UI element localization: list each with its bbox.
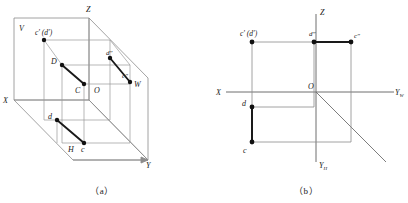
figure-panel-a: Z X Y V H W c′ (d′) D C d″ c″ d c O （a） xyxy=(0,0,204,203)
point-markers xyxy=(42,38,132,145)
point-cd-front xyxy=(42,38,46,42)
point-label-D-a: D xyxy=(50,57,57,66)
origin-label-a: O xyxy=(94,86,100,95)
plane-label-h: H xyxy=(67,145,75,154)
point-cd-front-b xyxy=(250,40,255,45)
segment-cd-top-view xyxy=(57,120,84,143)
projection-construction-lines xyxy=(44,40,130,143)
panel-b-drawing: Z X YW YH O c′ (d′) d″ c″ d c xyxy=(204,0,408,180)
axis-label-yh-b: YH xyxy=(319,161,327,171)
axis-y-arrow xyxy=(73,157,148,163)
point-label-d-top-b: d xyxy=(242,99,247,108)
plane-label-w: W xyxy=(134,80,142,89)
axis-label-yw-b: YW xyxy=(395,88,404,98)
axis-label-y-a: Y xyxy=(146,161,152,170)
axis-label-z-a: Z xyxy=(86,5,91,14)
point-d-top xyxy=(55,118,59,122)
axis-label-x-a: X xyxy=(2,96,9,105)
point-d-top-b xyxy=(250,105,255,110)
point-label-cd-front-b: c′ (d′) xyxy=(240,29,258,38)
point-d-side-b xyxy=(312,40,317,45)
point-c-top-b xyxy=(250,140,255,145)
origin-label-b: O xyxy=(308,82,314,91)
point-label-c-side-a: c″ xyxy=(122,72,128,80)
point-label-d-side-b: d″ xyxy=(309,30,316,38)
panel-a-drawing: Z X Y V H W c′ (d′) D C d″ c″ d c O xyxy=(0,0,204,180)
point-label-d-side-a: d″ xyxy=(106,49,113,57)
point-c-side-b xyxy=(349,40,354,45)
point-c-side xyxy=(128,80,132,84)
caption-b: （b） xyxy=(204,184,408,197)
point-label-c-top-a: c xyxy=(81,145,85,154)
point-label-C-a: C xyxy=(75,86,81,95)
caption-a: （a） xyxy=(0,184,204,197)
axis-label-z-b: Z xyxy=(320,8,325,17)
figure-container: Z X Y V H W c′ (d′) D C d″ c″ d c O （a） xyxy=(0,0,408,203)
segment-CD-space xyxy=(62,65,84,84)
point-C-space xyxy=(82,82,86,86)
point-D-space xyxy=(60,63,64,67)
figure-panel-b: Z X YW YH O c′ (d′) d″ c″ d c （b） xyxy=(204,0,408,203)
point-label-c-side-b: c″ xyxy=(354,32,360,40)
point-label-cd-front-a: c′ (d′) xyxy=(35,28,53,37)
point-label-c-top-b: c xyxy=(243,146,247,155)
axis-label-x-b: X xyxy=(215,88,222,97)
plane-label-v: V xyxy=(19,24,25,33)
